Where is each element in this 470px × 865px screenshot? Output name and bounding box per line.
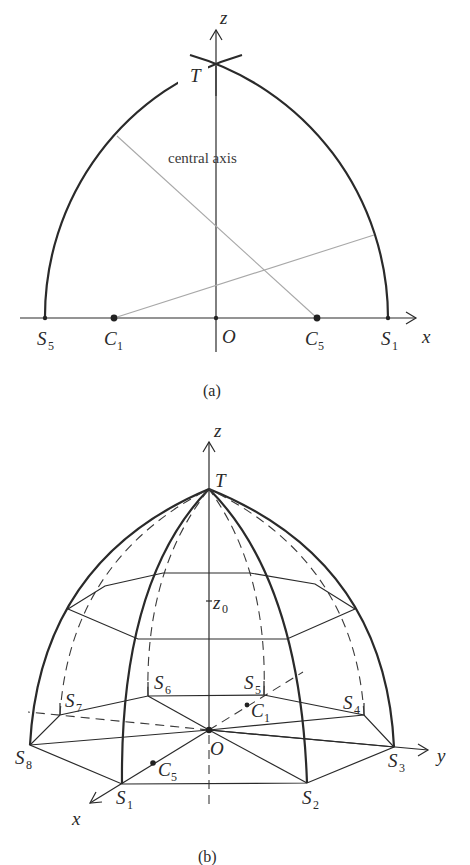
panel-a: z x T O S 5 C 1 C 5 S 1 central axis (a)	[20, 7, 431, 400]
caption-b: (b)	[198, 848, 217, 865]
svg-text:5: 5	[171, 770, 177, 784]
label-s4: S	[343, 692, 353, 713]
svg-text:3: 3	[399, 761, 405, 775]
rib-s1	[122, 489, 209, 784]
central-axis-label: central axis	[168, 150, 237, 166]
dome-geometry-figure: z x T O S 5 C 1 C 5 S 1 central axis (a)	[0, 0, 470, 865]
svg-text:2: 2	[313, 798, 319, 812]
svg-text:1: 1	[127, 798, 133, 812]
x-axis-b-label: x	[71, 808, 81, 829]
lower-ring	[68, 609, 355, 639]
label-c1-b: C	[251, 700, 264, 721]
svg-text:1: 1	[392, 339, 398, 353]
caption-a: (a)	[203, 382, 221, 400]
svg-text:6: 6	[165, 683, 171, 697]
label-s5: S	[37, 328, 47, 349]
point-c1-b	[245, 703, 250, 708]
svg-text:5: 5	[318, 339, 324, 353]
x-axis-b	[90, 730, 209, 803]
label-s2: S	[302, 787, 312, 808]
point-c5	[314, 315, 321, 322]
svg-text:4: 4	[354, 703, 360, 717]
label-c5: C	[305, 328, 318, 349]
label-s3: S	[388, 750, 398, 771]
svg-text:1: 1	[264, 711, 270, 725]
y-axis-b-label: y	[435, 745, 446, 766]
svg-text:5: 5	[48, 339, 54, 353]
rib-s6	[148, 489, 209, 696]
label-s1-b: S	[116, 787, 126, 808]
label-s1: S	[381, 328, 391, 349]
rib-s7	[60, 489, 209, 715]
panel-b: z T z 0 O x y S 8 S 7 S 6 S 5 S 4 S 3 S …	[15, 420, 446, 865]
label-o: O	[222, 326, 236, 347]
svg-text:7: 7	[76, 701, 82, 715]
label-s7: S	[65, 690, 75, 711]
point-c5-b	[150, 760, 156, 766]
rib-s4	[209, 489, 364, 715]
left-arc	[45, 55, 242, 318]
label-s6: S	[154, 672, 164, 693]
upper-ring	[68, 573, 355, 609]
svg-text:8: 8	[26, 758, 32, 772]
label-s5-b: S	[244, 672, 254, 693]
label-t-b: T	[215, 470, 227, 491]
point-o-b	[206, 727, 212, 733]
svg-text:5: 5	[255, 683, 261, 697]
svg-text:0: 0	[222, 602, 228, 616]
label-t: T	[190, 65, 202, 86]
point-c1	[111, 315, 118, 322]
point-s1	[386, 316, 390, 320]
point-s5	[43, 316, 47, 320]
point-o	[214, 316, 218, 320]
label-o-b: O	[210, 738, 224, 759]
label-c5-b: C	[158, 759, 171, 780]
rib-s8	[30, 489, 209, 745]
label-c1: C	[104, 328, 117, 349]
x-axis-label: x	[421, 326, 431, 347]
label-z0: z	[212, 592, 221, 613]
z-axis-label: z	[219, 7, 228, 28]
z-axis-b-label: z	[213, 420, 222, 441]
right-arc	[190, 55, 388, 318]
svg-text:1: 1	[117, 339, 123, 353]
radius-line-c1	[114, 235, 374, 318]
label-s8: S	[15, 747, 25, 768]
